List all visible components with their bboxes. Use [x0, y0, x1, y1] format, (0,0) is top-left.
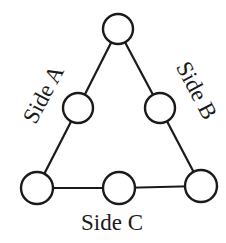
node-bottom-right	[185, 170, 217, 202]
node-bottom-left	[21, 172, 53, 204]
side-b-label: Side B	[171, 57, 222, 123]
node-mid-left	[63, 93, 93, 123]
node-mid-right	[145, 93, 175, 123]
side-c-label: Side C	[81, 210, 143, 235]
node-top	[103, 14, 133, 44]
triangle-diagram: Side A Side B Side C	[0, 0, 226, 243]
node-bottom-middle	[103, 172, 135, 204]
side-a-label: Side A	[18, 61, 69, 128]
